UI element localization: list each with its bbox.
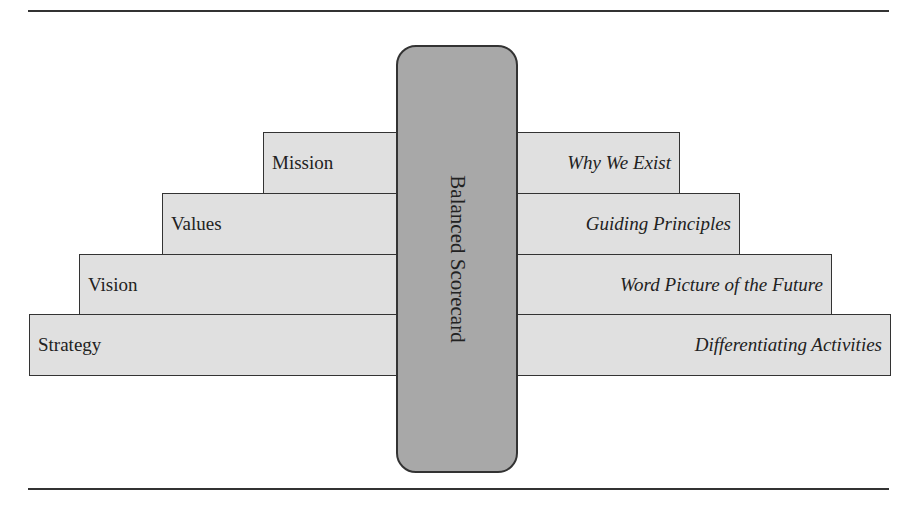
level-name: Values (171, 213, 222, 235)
level-description: Differentiating Activities (695, 334, 882, 356)
level-mission-label: Mission (263, 132, 403, 194)
top-rule (28, 10, 889, 12)
level-description: Guiding Principles (586, 213, 731, 235)
level-strategy-description: Differentiating Activities (511, 314, 891, 376)
level-values-label: Values (162, 193, 403, 255)
pillar-label: Balanced Scorecard (445, 175, 470, 342)
level-name: Vision (88, 274, 138, 296)
bottom-rule (28, 488, 889, 490)
level-values-description: Guiding Principles (511, 193, 740, 255)
level-name: Mission (272, 152, 333, 174)
level-name: Strategy (38, 334, 101, 356)
level-description: Why We Exist (567, 152, 671, 174)
level-mission-description: Why We Exist (511, 132, 680, 194)
level-description: Word Picture of the Future (620, 274, 823, 296)
level-strategy-label: Strategy (29, 314, 403, 376)
balanced-scorecard-pillar: Balanced Scorecard (396, 45, 518, 473)
level-vision-description: Word Picture of the Future (511, 254, 832, 315)
level-vision-label: Vision (79, 254, 403, 315)
